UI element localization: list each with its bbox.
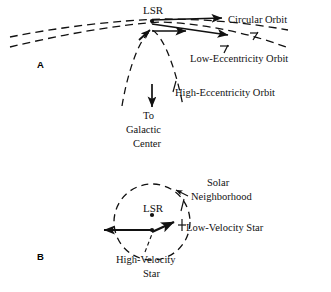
apex-indicator-arrow [139, 30, 150, 40]
solar-neighborhood-label-line1: Solar [207, 177, 229, 188]
low-eccentricity-orbit-label: Low-Eccentricity Orbit [190, 53, 288, 64]
circular-orbit-label: Circular Orbit [228, 14, 287, 25]
panel-a-artwork [0, 0, 331, 292]
high-velocity-star-leader [145, 234, 152, 252]
low-velocity-star-vector [152, 222, 174, 232]
circular-orbit-leader [250, 32, 258, 40]
low-velocity-star-label: Low-Velocity Star [186, 222, 263, 233]
velocity-origin-point [150, 228, 154, 232]
galactic-center-label-line2: Galactic [126, 124, 161, 135]
galactic-center-label-line3: Center [133, 138, 161, 149]
low-eccentricity-orbit-curve [10, 22, 286, 47]
lsr-label-b: LSR [143, 203, 163, 215]
galactic-center-label-line1: To [143, 110, 154, 121]
panel-label-a: A [37, 60, 44, 70]
low-eccentricity-orbit-vector [152, 24, 228, 35]
high-eccentricity-orbit-label: High-Eccentricity Orbit [175, 87, 275, 98]
solar-neighborhood-label-line2: Neighborhood [191, 191, 252, 202]
high-velocity-star-label-line2: Star [143, 268, 160, 279]
figure-root: LSR Circular Orbit Low-Eccentricity Orbi… [0, 0, 331, 292]
lsr-label-a: LSR [143, 5, 163, 17]
high-velocity-star-label-line1: High-Velocity [116, 254, 176, 265]
panel-label-b: B [37, 252, 44, 262]
solar-neighborhood-leader [176, 190, 188, 211]
low-eccentricity-orbit-leader [220, 45, 229, 53]
high-eccentricity-orbit-curve [122, 30, 183, 106]
lsr-point-a [150, 19, 154, 23]
panel-b-artwork [0, 0, 331, 292]
low-velocity-star-leader [178, 219, 186, 231]
circular-orbit-vector [152, 18, 222, 20]
solar-neighborhood-circle [114, 184, 190, 260]
